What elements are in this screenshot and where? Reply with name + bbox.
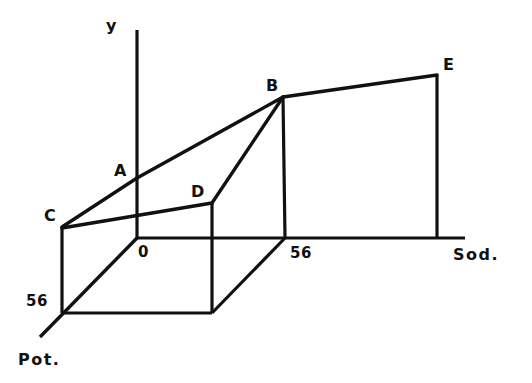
drop-lines-group <box>62 75 437 313</box>
figure-canvas: y Sod. Pot. 0 56 56 A B C D E <box>0 0 532 383</box>
axis-label-y: y <box>106 18 118 34</box>
vertex-label-e: E <box>443 57 454 73</box>
origin-label: 0 <box>138 245 148 260</box>
tick-label-pot-56: 56 <box>26 294 48 309</box>
base-right-edge <box>212 238 285 313</box>
vertex-label-b: B <box>266 78 278 94</box>
vertex-label-a: A <box>114 163 126 179</box>
pot-axis-line <box>40 238 137 337</box>
tick-label-sod-56: 56 <box>290 246 312 261</box>
edge-a-b <box>137 97 283 178</box>
axis-label-pot: Pot. <box>18 352 60 368</box>
vertex-label-c: C <box>44 208 56 224</box>
edge-b-e <box>283 75 437 97</box>
vertex-label-d: D <box>191 184 204 200</box>
drop-line-b <box>283 97 285 238</box>
surface-edges-group <box>62 75 437 228</box>
base-plane-group <box>62 238 285 313</box>
edge-d-b <box>212 97 283 203</box>
edge-c-a <box>62 178 137 227</box>
axis-label-sod: Sod. <box>453 247 499 263</box>
axes-group <box>40 30 465 337</box>
